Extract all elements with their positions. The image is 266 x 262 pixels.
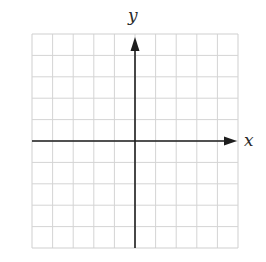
grid-graphic bbox=[0, 0, 266, 262]
coordinate-plane: y x bbox=[0, 0, 266, 262]
x-axis-label: x bbox=[244, 132, 254, 149]
axes bbox=[32, 37, 237, 248]
y-axis-arrow-icon bbox=[131, 37, 140, 51]
x-axis-arrow-icon bbox=[224, 137, 237, 146]
y-axis-label: y bbox=[128, 7, 138, 24]
